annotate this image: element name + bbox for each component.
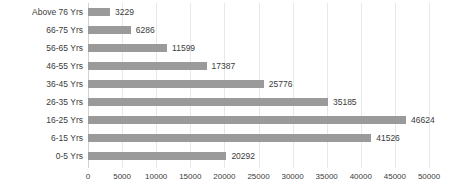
bar-value-label: 20292 (231, 151, 255, 161)
x-axis-tick-label: 10000 (145, 172, 167, 182)
category-label: 26-35 Yrs (0, 97, 83, 107)
bar-value-label: 6286 (136, 25, 155, 35)
bar (88, 134, 371, 142)
bar-row: Above 76 Yrs3229 (0, 3, 450, 21)
bar (88, 62, 207, 70)
bar-container: 46624 (88, 111, 450, 129)
x-axis-tick-label: 50000 (418, 172, 440, 182)
bar-value-label: 35185 (333, 97, 357, 107)
bar-container: 17387 (88, 57, 450, 75)
bar-container: 11599 (88, 39, 450, 57)
bar (88, 152, 226, 160)
x-axis-tick-label: 30000 (281, 172, 303, 182)
category-label: 66-75 Yrs (0, 25, 83, 35)
bar-value-label: 3229 (115, 7, 134, 17)
bar-chart: Above 76 Yrs322966-75 Yrs628656-65 Yrs11… (0, 0, 450, 195)
bar-row: 0-5 Yrs20292 (0, 147, 450, 165)
bar (88, 116, 406, 124)
bar-container: 3229 (88, 3, 450, 21)
bar-rows: Above 76 Yrs322966-75 Yrs628656-65 Yrs11… (0, 0, 450, 168)
bar-container: 41526 (88, 129, 450, 147)
bar-value-label: 17387 (212, 61, 236, 71)
bar-value-label: 11599 (172, 43, 195, 53)
bar (88, 98, 328, 106)
bar-row: 6-15 Yrs41526 (0, 129, 450, 147)
x-axis-tick-label: 0 (86, 172, 90, 182)
bar-container: 35185 (88, 93, 450, 111)
bar-row: 36-45 Yrs25776 (0, 75, 450, 93)
category-label: 16-25 Yrs (0, 115, 83, 125)
bar (88, 26, 131, 34)
x-axis-tick-label: 20000 (213, 172, 235, 182)
x-axis-tick-label: 40000 (350, 172, 372, 182)
x-axis-tick-label: 5000 (113, 172, 131, 182)
category-label: 46-55 Yrs (0, 61, 83, 71)
bar (88, 80, 264, 88)
x-axis-tick-label: 25000 (247, 172, 269, 182)
x-axis: 0500010000150002000025000300003500040000… (88, 168, 429, 194)
x-axis-tick-label: 15000 (179, 172, 201, 182)
bar (88, 8, 110, 16)
bar-value-label: 46624 (411, 115, 435, 125)
bar-row: 56-65 Yrs11599 (0, 39, 450, 57)
category-label: 36-45 Yrs (0, 79, 83, 89)
x-axis-tick-label: 45000 (384, 172, 406, 182)
bar-value-label: 25776 (269, 79, 293, 89)
category-label: Above 76 Yrs (0, 7, 83, 17)
bar-row: 66-75 Yrs6286 (0, 21, 450, 39)
bar (88, 44, 167, 52)
category-label: 56-65 Yrs (0, 43, 83, 53)
bar-container: 6286 (88, 21, 450, 39)
category-label: 6-15 Yrs (0, 133, 83, 143)
bar-row: 16-25 Yrs46624 (0, 111, 450, 129)
bar-container: 20292 (88, 147, 450, 165)
bar-value-label: 41526 (376, 133, 400, 143)
x-axis-tick-label: 35000 (316, 172, 338, 182)
bar-row: 26-35 Yrs35185 (0, 93, 450, 111)
bar-row: 46-55 Yrs17387 (0, 57, 450, 75)
category-label: 0-5 Yrs (0, 151, 83, 161)
bar-container: 25776 (88, 75, 450, 93)
